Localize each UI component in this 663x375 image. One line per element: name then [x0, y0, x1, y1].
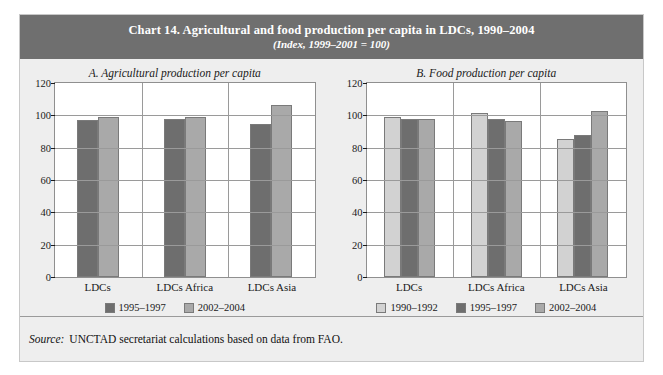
panel-b-plot: 020406080100120: [366, 82, 628, 278]
category-divider: [453, 83, 454, 277]
y-axis-tick-mark: [363, 148, 367, 149]
gridline: [367, 212, 627, 213]
legend-item[interactable]: 1990–1992: [376, 302, 437, 313]
y-axis-tick-label: 20: [352, 239, 363, 250]
y-axis-tick-label: 80: [41, 142, 52, 153]
panel-a-legend: 1995–19972002–2004: [28, 302, 322, 313]
gridline: [55, 148, 315, 149]
legend-swatch-icon: [105, 303, 115, 313]
legend-item[interactable]: 1995–1997: [105, 302, 166, 313]
y-axis-tick-mark: [51, 83, 55, 84]
y-axis-tick-label: 20: [41, 239, 52, 250]
y-axis-tick-label: 40: [41, 207, 52, 218]
x-axis-label: LDCs Africa: [141, 281, 228, 293]
bar: [471, 113, 488, 277]
legend-label: 2002–2004: [198, 302, 245, 313]
panel-a-x-axis-labels: LDCsLDCs AfricaLDCs Asia: [54, 281, 316, 293]
panel-a-title: A. Agricultural production per capita: [28, 67, 322, 79]
x-axis-label: LDCs: [54, 281, 141, 293]
panel-b-plot-area: 020406080100120: [366, 82, 628, 278]
gridline: [55, 180, 315, 181]
chart-panels: A. Agricultural production per capita 02…: [20, 59, 643, 318]
source-label: Source:: [29, 333, 64, 345]
bar: [488, 119, 505, 277]
chart-panel-b: B. Food production per capita 0204060801…: [332, 59, 644, 318]
bar: [557, 139, 574, 277]
y-axis-tick-label: 60: [352, 175, 363, 186]
bar: [574, 135, 591, 277]
bar: [98, 117, 119, 277]
legend-swatch-icon: [535, 303, 545, 313]
bar: [591, 111, 608, 277]
y-axis-tick-label: 100: [347, 110, 363, 121]
figure-body: A. Agricultural production per capita 02…: [20, 59, 643, 318]
bar: [271, 105, 292, 277]
chart-panel-a: A. Agricultural production per capita 02…: [20, 59, 332, 318]
figure-title: Chart 14. Agricultural and food producti…: [128, 23, 534, 38]
figure-header: Chart 14. Agricultural and food producti…: [20, 15, 643, 59]
y-axis-tick-mark: [51, 115, 55, 116]
bar: [505, 121, 522, 277]
y-axis-tick-label: 120: [35, 78, 51, 89]
legend-label: 2002–2004: [549, 302, 596, 313]
bar: [384, 117, 401, 277]
gridline: [367, 245, 627, 246]
panel-a-plot: 020406080100120: [54, 82, 316, 278]
y-axis-tick-mark: [363, 212, 367, 213]
category-divider: [228, 83, 229, 277]
legend-swatch-icon: [184, 303, 194, 313]
panel-a-plot-area: 020406080100120: [54, 82, 316, 278]
category-divider: [540, 83, 541, 277]
legend-item[interactable]: 1995–1997: [456, 302, 517, 313]
gridline: [55, 115, 315, 116]
legend-label: 1995–1997: [119, 302, 166, 313]
x-axis-label: LDCs Asia: [540, 281, 627, 293]
gridline: [55, 212, 315, 213]
y-axis-tick-label: 40: [352, 207, 363, 218]
legend-item[interactable]: 2002–2004: [184, 302, 245, 313]
y-axis-tick-label: 60: [41, 175, 52, 186]
legend-swatch-icon: [456, 303, 466, 313]
y-axis-tick-mark: [363, 245, 367, 246]
y-axis-tick-mark: [363, 277, 367, 278]
legend-item[interactable]: 2002–2004: [535, 302, 596, 313]
y-axis-tick-mark: [51, 148, 55, 149]
figure-footer: Source: UNCTAD secretariat calculations …: [20, 316, 643, 361]
source-text: UNCTAD secretariat calculations based on…: [69, 333, 343, 345]
legend-label: 1990–1992: [390, 302, 437, 313]
gridline: [55, 245, 315, 246]
bar: [418, 119, 435, 277]
figure-subtitle: (Index, 1999–2001 = 100): [273, 38, 390, 51]
y-axis-tick-mark: [363, 115, 367, 116]
legend-label: 1995–1997: [470, 302, 517, 313]
y-axis-tick-label: 80: [352, 142, 363, 153]
panel-b-title: B. Food production per capita: [340, 67, 634, 79]
panel-b-x-axis-labels: LDCsLDCs AfricaLDCs Asia: [366, 281, 628, 293]
bar: [401, 119, 418, 277]
bar: [164, 119, 185, 277]
bar: [77, 120, 98, 277]
category-divider: [142, 83, 143, 277]
y-axis-tick-label: 120: [347, 78, 363, 89]
panel-b-legend: 1990–19921995–19972002–2004: [340, 302, 634, 313]
legend-swatch-icon: [376, 303, 386, 313]
gridline: [367, 115, 627, 116]
x-axis-label: LDCs: [366, 281, 453, 293]
y-axis-tick-mark: [51, 180, 55, 181]
x-axis-label: LDCs Asia: [228, 281, 315, 293]
gridline: [367, 148, 627, 149]
y-axis-tick-mark: [51, 277, 55, 278]
y-axis-tick-mark: [51, 245, 55, 246]
bar: [185, 117, 206, 277]
chart-figure: Chart 14. Agricultural and food producti…: [19, 14, 644, 362]
y-axis-tick-label: 100: [35, 110, 51, 121]
gridline: [367, 180, 627, 181]
y-axis-tick-mark: [363, 83, 367, 84]
y-axis-tick-mark: [363, 180, 367, 181]
y-axis-tick-mark: [51, 212, 55, 213]
x-axis-label: LDCs Africa: [453, 281, 540, 293]
